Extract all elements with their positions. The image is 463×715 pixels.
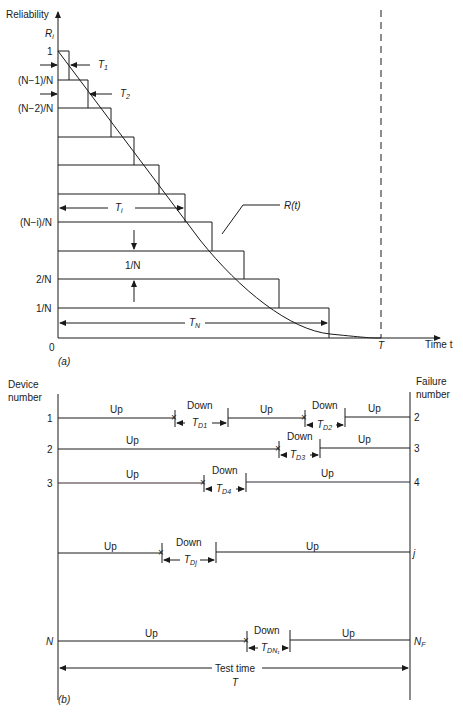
failure-header-2: number (416, 389, 451, 400)
svg-text:Up: Up (368, 403, 381, 414)
svg-text:×: × (158, 547, 164, 558)
svg-text:Up: Up (145, 628, 158, 639)
device-header-2: number (8, 392, 43, 403)
test-time-symbol: T (232, 677, 239, 688)
t1-label: T1 (98, 59, 108, 71)
y-axis-label: Reliability (6, 9, 49, 20)
svg-text:1: 1 (47, 413, 53, 424)
svg-text:2: 2 (414, 412, 420, 423)
svg-text:Up: Up (126, 435, 139, 446)
step-label: 1/N (125, 260, 141, 271)
svg-text:×: × (171, 412, 177, 423)
svg-text:TD1: TD1 (192, 417, 207, 429)
svg-text:TD3: TD3 (290, 449, 305, 461)
y-axis-symbol: Ri (45, 28, 54, 40)
failure-header-1: Failure (416, 376, 447, 387)
svg-text:Down: Down (212, 465, 238, 476)
level-0: 0 (49, 342, 55, 353)
level-1-n: 1/N (36, 303, 52, 314)
svg-text:j: j (411, 548, 416, 559)
level-n-i: (N−i)/N (20, 217, 52, 228)
svg-text:NF: NF (414, 636, 426, 648)
svg-text:TDj: TDj (184, 554, 197, 567)
device-row-3: 3 Up × Down TD4 Up 4 (47, 465, 420, 495)
svg-text:N: N (46, 636, 54, 647)
svg-text:×: × (200, 477, 206, 488)
svg-text:Up: Up (321, 468, 334, 479)
device-row-j: Up × Down TDj Up j (58, 537, 416, 567)
svg-text:Down: Down (176, 537, 202, 548)
level-2-n: 2/N (36, 274, 52, 285)
panel-label-b: (b) (58, 694, 70, 705)
svg-text:Up: Up (104, 541, 117, 552)
svg-text:×: × (301, 412, 307, 423)
svg-text:2: 2 (47, 444, 53, 455)
t2-label: T2 (120, 88, 130, 100)
svg-text:Down: Down (287, 431, 313, 442)
device-header-1: Device (8, 379, 39, 390)
svg-text:TD2: TD2 (317, 419, 332, 431)
svg-text:×: × (275, 443, 281, 454)
svg-text:Down: Down (254, 625, 280, 636)
svg-text:Up: Up (358, 434, 371, 445)
svg-text:Up: Up (126, 469, 139, 480)
svg-text:TDN₁: TDN₁ (261, 642, 280, 654)
device-row-2: 2 Up × Down TD3 Up 3 (47, 431, 420, 461)
device-row-n: N Up × Down TDN₁ Up NF (46, 625, 426, 654)
x-axis-label: Time t (425, 339, 453, 350)
curve-label: R(t) (284, 200, 301, 211)
test-time-label: Test time (215, 663, 255, 674)
svg-text:Up: Up (260, 404, 273, 415)
figure-b: Device number Failure number 1 Up × Down… (8, 376, 451, 705)
reliability-diagram: Reliability Ri Time t 1 (N−1)/N (N−2)/N … (0, 0, 463, 715)
test-end-label: T (378, 340, 385, 351)
panel-label-a: (a) (58, 356, 70, 367)
svg-text:3: 3 (47, 478, 53, 489)
level-1: 1 (47, 46, 53, 57)
figure-a: Reliability Ri Time t 1 (N−1)/N (N−2)/N … (6, 9, 453, 367)
svg-text:Up: Up (306, 541, 319, 552)
svg-text:TD4: TD4 (216, 483, 231, 495)
level-n-2: (N−2)/N (18, 103, 53, 114)
svg-text:Down: Down (187, 400, 213, 411)
ti-label: Ti (115, 202, 123, 214)
level-n-1: (N−1)/N (18, 75, 53, 86)
svg-text:4: 4 (414, 477, 420, 488)
svg-text:3: 3 (414, 443, 420, 454)
curve-leader (222, 205, 243, 234)
device-row-1: 1 Up × Down TD1 Up × Down TD2 Up 2 (47, 400, 420, 431)
svg-text:×: × (243, 635, 249, 646)
tn-label: TN (189, 317, 201, 329)
svg-text:Up: Up (110, 404, 123, 415)
svg-text:Up: Up (342, 628, 355, 639)
test-time-span: Test time T (60, 663, 408, 688)
svg-text:Down: Down (312, 400, 338, 411)
